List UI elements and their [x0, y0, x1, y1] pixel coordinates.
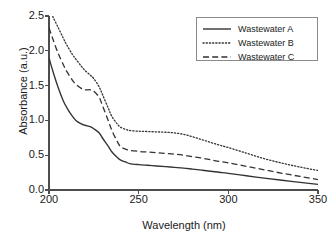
legend-swatch-dashed-icon	[202, 52, 232, 62]
legend-item-2[interactable]: Wastewater B	[202, 36, 312, 49]
legend-item-3[interactable]: Wastewater C	[202, 50, 312, 63]
series-line-1	[49, 58, 318, 185]
absorbance-spectra-figure: Absorbance (a.u.) 0.00.51.01.52.02.5 200…	[0, 0, 332, 244]
legend-swatch-solid-icon	[202, 24, 232, 34]
legend-swatch-dotted-icon	[202, 38, 232, 48]
legend-label-2: Wastewater B	[238, 38, 294, 48]
legend-label-1: Wastewater A	[238, 24, 293, 34]
legend-item-1[interactable]: Wastewater A	[202, 22, 312, 35]
legend-label-3: Wastewater C	[238, 52, 294, 62]
legend: Wastewater AWastewater BWastewater C	[196, 17, 318, 61]
